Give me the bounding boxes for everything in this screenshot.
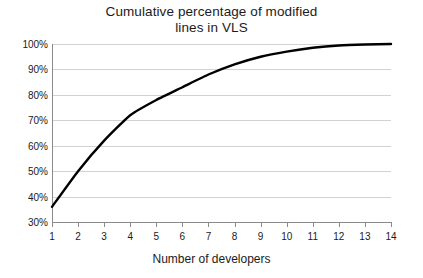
x-tick-label: 9 xyxy=(249,231,273,242)
x-tick-mark xyxy=(261,222,262,227)
x-tick-label: 7 xyxy=(196,231,220,242)
x-tick-mark xyxy=(235,222,236,227)
x-tick-label: 2 xyxy=(66,231,90,242)
x-tick-mark xyxy=(365,222,366,227)
y-tick-label: 80% xyxy=(4,89,48,100)
x-tick-mark xyxy=(391,222,392,227)
x-axis-title: Number of developers xyxy=(0,252,423,266)
y-tick-label: 40% xyxy=(4,191,48,202)
gridline-50% xyxy=(52,171,391,172)
x-tick-label: 12 xyxy=(327,231,351,242)
x-tick-mark xyxy=(104,222,105,227)
y-tick-label: 90% xyxy=(4,64,48,75)
x-tick-label: 3 xyxy=(92,231,116,242)
x-tick-label: 5 xyxy=(144,231,168,242)
gridline-100% xyxy=(52,44,391,45)
gridline-40% xyxy=(52,197,391,198)
x-tick-label: 10 xyxy=(275,231,299,242)
x-tick-mark xyxy=(52,222,53,227)
gridline-60% xyxy=(52,146,391,147)
x-tick-label: 6 xyxy=(170,231,194,242)
x-axis-line xyxy=(52,222,392,223)
chart-title-line-2: lines in VLS xyxy=(0,20,423,36)
x-tick-label: 13 xyxy=(353,231,377,242)
x-tick-mark xyxy=(339,222,340,227)
y-tick-label: 70% xyxy=(4,115,48,126)
plot-area xyxy=(52,44,391,222)
y-tick-label: 60% xyxy=(4,140,48,151)
x-tick-label: 14 xyxy=(379,231,403,242)
chart-title: Cumulative percentage of modified lines … xyxy=(0,4,423,36)
x-tick-mark xyxy=(313,222,314,227)
y-tick-label: 100% xyxy=(4,39,48,50)
gridline-90% xyxy=(52,69,391,70)
x-tick-label: 11 xyxy=(301,231,325,242)
x-tick-mark xyxy=(78,222,79,227)
x-tick-mark xyxy=(208,222,209,227)
y-tick-label: 30% xyxy=(4,217,48,228)
x-tick-mark xyxy=(156,222,157,227)
y-axis-line xyxy=(52,44,53,223)
gridline-80% xyxy=(52,95,391,96)
x-tick-mark xyxy=(130,222,131,227)
x-tick-label: 1 xyxy=(40,231,64,242)
y-tick-label: 50% xyxy=(4,166,48,177)
gridline-70% xyxy=(52,120,391,121)
x-tick-mark xyxy=(182,222,183,227)
x-tick-mark xyxy=(287,222,288,227)
x-tick-label: 8 xyxy=(223,231,247,242)
chart-title-line-1: Cumulative percentage of modified xyxy=(0,4,423,20)
chart-screenshot: Cumulative percentage of modified lines … xyxy=(0,0,423,278)
x-tick-label: 4 xyxy=(118,231,142,242)
